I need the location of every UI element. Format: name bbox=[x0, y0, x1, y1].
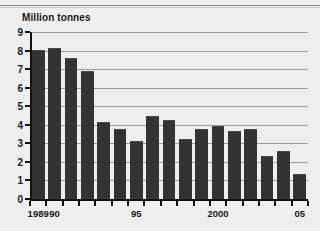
y-tick-label: 3 bbox=[1, 138, 23, 149]
x-tick-mark bbox=[160, 201, 162, 206]
y-tick-label: 8 bbox=[1, 45, 23, 56]
x-tick-mark bbox=[176, 201, 178, 206]
y-tick-label: 1 bbox=[1, 175, 23, 186]
plot-area bbox=[30, 32, 308, 199]
x-tick-mark bbox=[94, 201, 96, 206]
x-axis-line bbox=[30, 199, 308, 201]
y-tick-mark bbox=[25, 87, 30, 89]
y-tick-mark bbox=[25, 142, 30, 144]
gridline-8 bbox=[30, 51, 308, 52]
y-tick-mark bbox=[25, 31, 30, 33]
x-tick-label: 95 bbox=[131, 208, 142, 219]
y-tick-mark bbox=[25, 179, 30, 181]
header-divider-shadow bbox=[0, 7, 320, 8]
y-tick-label: 2 bbox=[1, 156, 23, 167]
bar bbox=[293, 174, 306, 199]
bar bbox=[244, 129, 257, 200]
bar bbox=[163, 120, 176, 199]
bar bbox=[179, 139, 192, 199]
x-tick-mark bbox=[307, 201, 309, 206]
x-tick-mark bbox=[111, 201, 113, 206]
bar bbox=[32, 50, 45, 199]
y-tick-mark bbox=[25, 198, 30, 200]
x-tick-label: 05 bbox=[295, 208, 306, 219]
x-tick-mark bbox=[78, 201, 80, 206]
x-tick-mark bbox=[242, 201, 244, 206]
y-tick-label: 5 bbox=[1, 101, 23, 112]
y-tick-mark bbox=[25, 124, 30, 126]
y-tick-label: 0 bbox=[1, 194, 23, 205]
x-tick-label: 90 bbox=[49, 208, 60, 219]
chart-axis-title: Million tonnes bbox=[22, 12, 91, 23]
bar bbox=[114, 129, 127, 200]
x-tick-mark bbox=[62, 201, 64, 206]
header-divider bbox=[0, 5, 320, 6]
bar bbox=[228, 131, 241, 199]
x-tick-mark bbox=[291, 201, 293, 206]
x-tick-mark bbox=[274, 201, 276, 206]
y-tick-mark bbox=[25, 68, 30, 70]
bar bbox=[195, 129, 208, 199]
bar bbox=[48, 48, 61, 199]
bar bbox=[146, 116, 159, 199]
gridline-9 bbox=[30, 32, 308, 33]
y-tick-mark bbox=[25, 105, 30, 107]
x-tick-label: 2000 bbox=[207, 208, 228, 219]
bar bbox=[130, 141, 143, 199]
y-tick-mark bbox=[25, 50, 30, 52]
x-tick-mark bbox=[193, 201, 195, 206]
bar bbox=[81, 71, 94, 199]
chart-figure: Million tonnes 0123456789 19899095200005 bbox=[0, 0, 320, 231]
x-tick-mark bbox=[143, 201, 145, 206]
bar bbox=[277, 151, 290, 199]
bar bbox=[261, 156, 274, 199]
x-tick-mark bbox=[127, 201, 129, 206]
bar bbox=[97, 122, 110, 199]
y-axis-line bbox=[30, 32, 32, 200]
y-tick-label: 6 bbox=[1, 82, 23, 93]
y-tick-label: 7 bbox=[1, 64, 23, 75]
x-tick-mark bbox=[258, 201, 260, 206]
x-tick-mark bbox=[45, 201, 47, 206]
x-tick-mark bbox=[225, 201, 227, 206]
y-tick-mark bbox=[25, 161, 30, 163]
bar bbox=[212, 126, 225, 199]
x-tick-label: 1989 bbox=[28, 208, 49, 219]
y-tick-label: 9 bbox=[1, 27, 23, 38]
bar bbox=[65, 58, 78, 199]
y-tick-label: 4 bbox=[1, 119, 23, 130]
x-tick-mark bbox=[209, 201, 211, 206]
x-tick-mark bbox=[29, 201, 31, 206]
